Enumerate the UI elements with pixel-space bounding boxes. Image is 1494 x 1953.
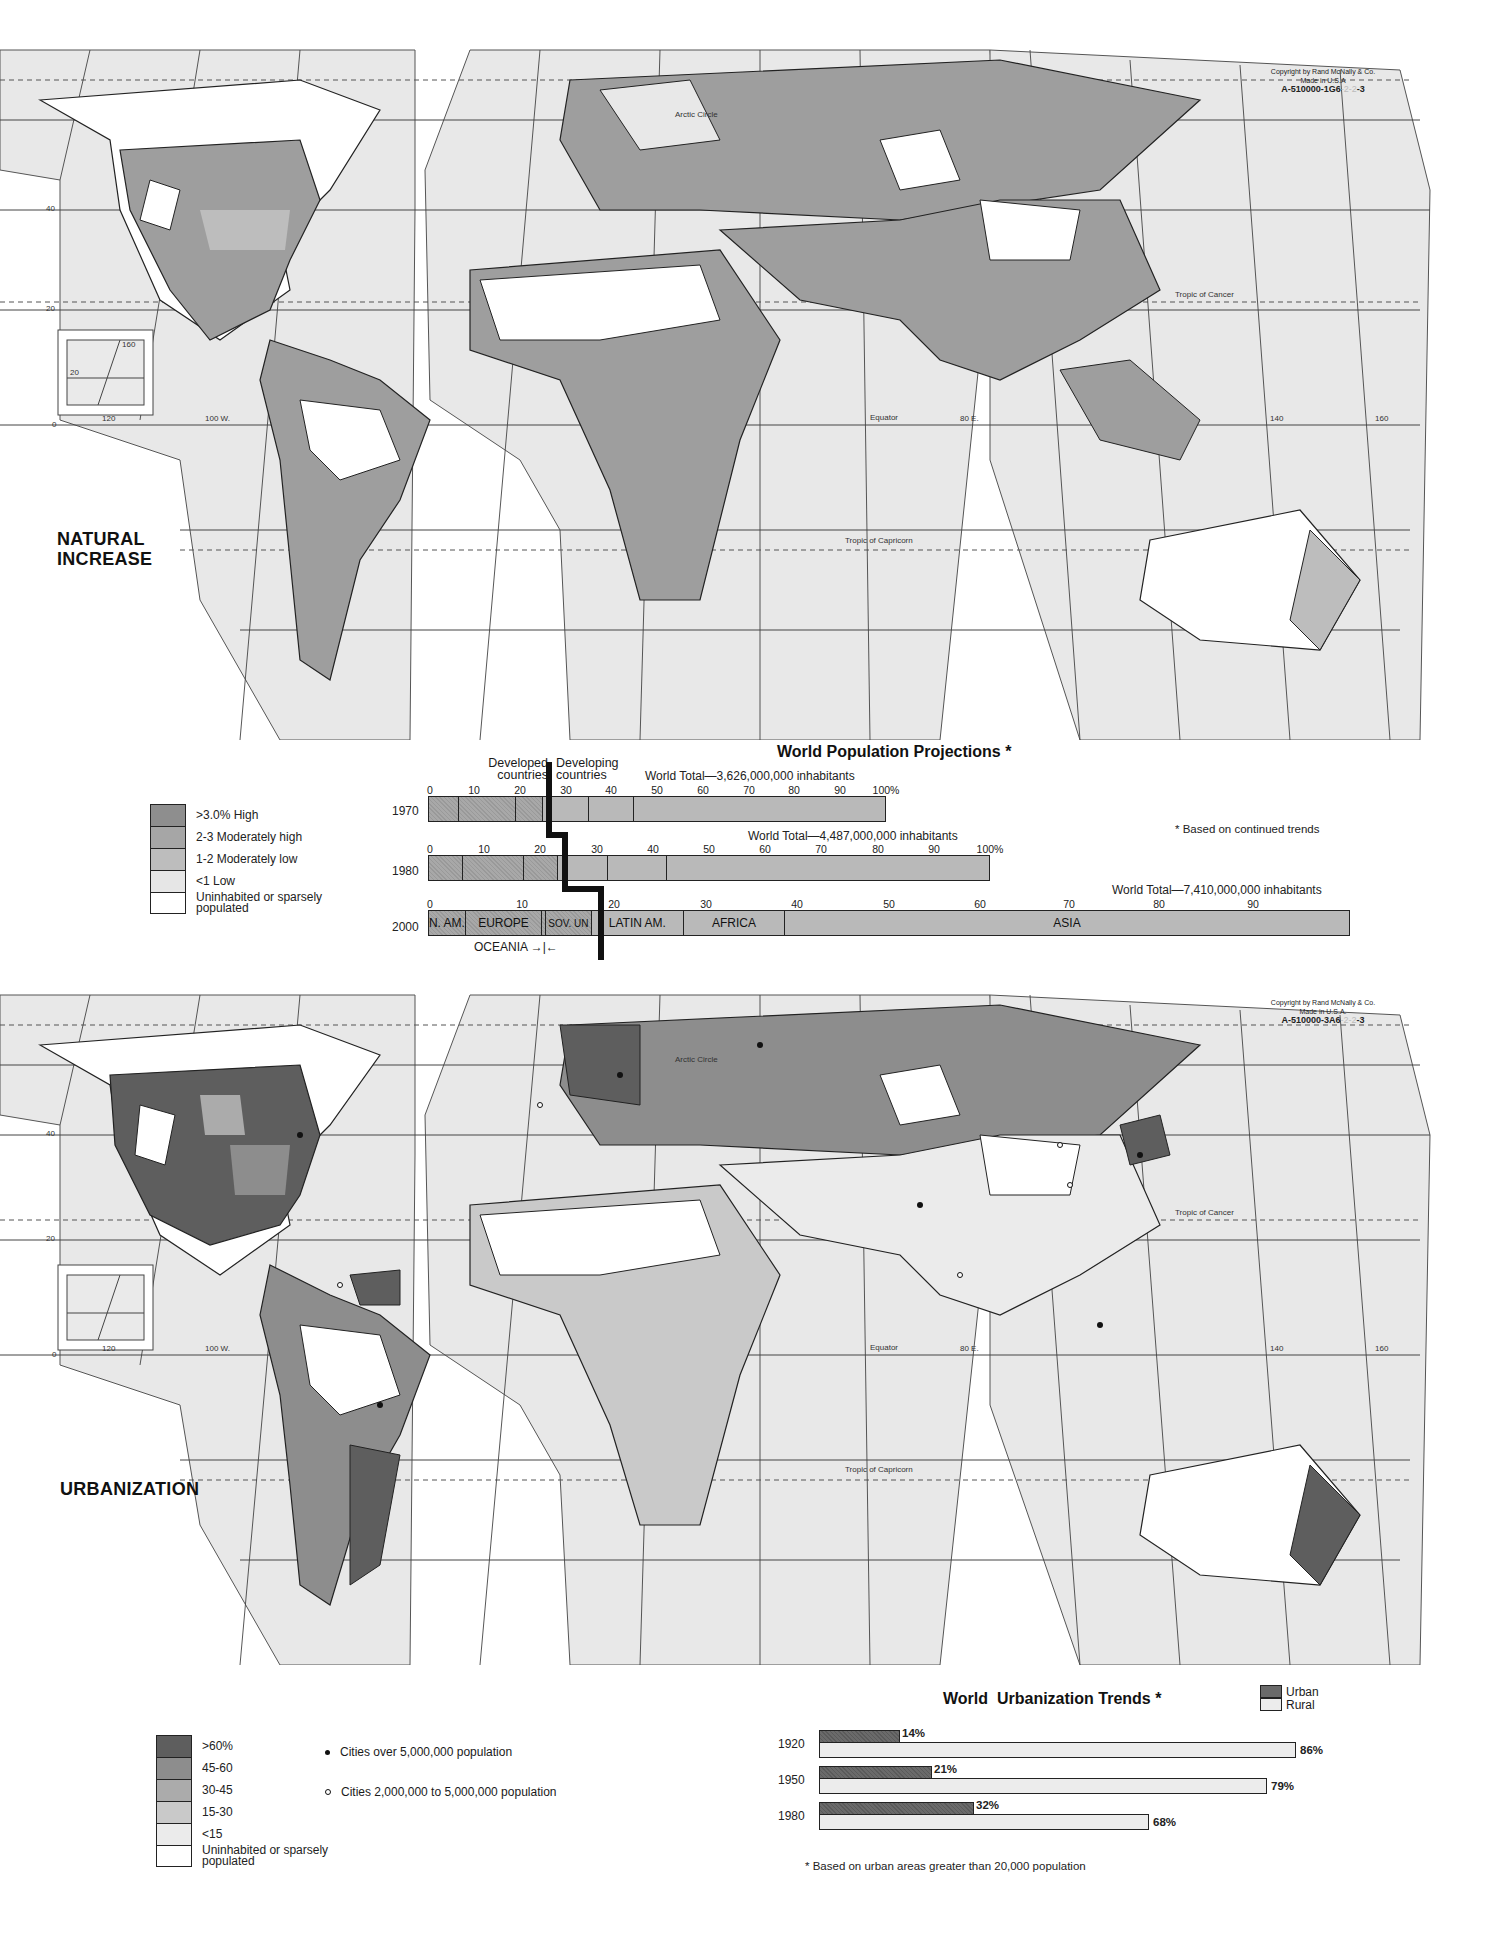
equator-label: Equator xyxy=(870,413,898,422)
developing-label: Developing countries xyxy=(556,757,636,781)
lat-0-label: 0 xyxy=(52,420,56,429)
population-projections-title: World Population Projections * xyxy=(777,743,1011,761)
lon-120-label: 120 xyxy=(102,414,115,423)
urbanization-footnote: * Based on urban areas greater than 20,0… xyxy=(805,1860,1086,1872)
lon-100w-label: 100 W. xyxy=(205,1344,230,1353)
urbanization-legend-key: Urban Rural xyxy=(1260,1685,1319,1711)
segment-sov-union: SOV. UN xyxy=(546,911,592,935)
rural-swatch xyxy=(1260,1698,1282,1711)
segment-sov-union xyxy=(524,856,558,880)
tropic-of-cancer-label: Tropic of Cancer xyxy=(1175,1208,1234,1217)
legend-swatch xyxy=(156,1801,192,1823)
lon-160-label: 160 xyxy=(1375,1344,1388,1353)
urban-swatch xyxy=(1260,1685,1282,1698)
developed-developing-divider xyxy=(546,762,552,832)
lon-160-label: 160 xyxy=(1375,414,1388,423)
segment-asia xyxy=(634,797,885,821)
segment-sov-union xyxy=(516,797,543,821)
legend-urban: Urban xyxy=(1260,1685,1319,1698)
lon-140-label: 140 xyxy=(1270,414,1283,423)
legend-item-uninhabited: Uninhabited or sparsely populated xyxy=(156,1845,332,1867)
segment-europe: EUROPE xyxy=(466,911,542,935)
lat-20-label: 20 xyxy=(46,304,55,313)
segment-n-america: N. AM. xyxy=(429,911,466,935)
tropic-of-cancer-label: Tropic of Cancer xyxy=(1175,290,1234,299)
urban-pct-1950: 21% xyxy=(934,1763,957,1775)
lat-40-label: 40 xyxy=(46,204,55,213)
segment-africa xyxy=(608,856,667,880)
legend-item-15-30: 15-30 xyxy=(156,1801,332,1823)
legend-item-under-15: <15 xyxy=(156,1823,332,1845)
arctic-circle-label: Arctic Circle xyxy=(675,1055,718,1064)
legend-item-moderately-low: 1-2 Moderately low xyxy=(150,848,326,870)
filled-dot-icon xyxy=(325,1750,330,1755)
legend-swatch xyxy=(156,1779,192,1801)
segment-europe xyxy=(463,856,525,880)
legend-swatch xyxy=(150,892,186,914)
legend-item-30-45: 30-45 xyxy=(156,1779,332,1801)
legend-swatch xyxy=(156,1845,192,1867)
legend-item-high: >3.0% High xyxy=(150,804,326,826)
legend-swatch xyxy=(150,804,186,826)
legend-item-45-60: 45-60 xyxy=(156,1757,332,1779)
developed-label: Developed countries xyxy=(468,757,548,781)
legend-rural: Rural xyxy=(1260,1698,1319,1711)
lat-20-label: 20 xyxy=(46,1234,55,1243)
segment-n-america xyxy=(429,856,463,880)
copyright-bottom: Copyright by Rand McNally & Co. Made in … xyxy=(1258,998,1388,1025)
projection-bar-1980 xyxy=(428,855,990,881)
natural-increase-title: NATURAL INCREASE xyxy=(57,529,152,569)
projection-bar-1970 xyxy=(428,796,886,822)
lat-0-label: 0 xyxy=(52,1350,56,1359)
legend-item-over-60: >60% xyxy=(156,1735,332,1757)
natural-increase-legend: >3.0% High 2-3 Moderately high 1-2 Moder… xyxy=(150,804,326,914)
inset-20-label: 20 xyxy=(70,368,79,377)
world-total-1980: World Total—4,487,000,000 inhabitants xyxy=(748,829,958,843)
year-1920: 1920 xyxy=(778,1737,805,1751)
legend-swatch xyxy=(150,826,186,848)
urbanization-map: Arctic Circle Tropic of Cancer Equator T… xyxy=(0,985,1440,1665)
legend-swatch xyxy=(150,870,186,892)
lon-120-label: 120 xyxy=(102,1344,115,1353)
inset-160-label: 160 xyxy=(122,340,135,349)
lat-40-label: 40 xyxy=(46,1129,55,1138)
legend-swatch xyxy=(150,848,186,870)
year-1970: 1970 xyxy=(392,804,419,818)
year-2000: 2000 xyxy=(392,920,419,934)
oceania-label: OCEANIA →|← xyxy=(474,940,558,954)
equator-label: Equator xyxy=(870,1343,898,1352)
tropic-of-capricorn-label: Tropic of Capricorn xyxy=(845,1465,913,1474)
lon-100w-label: 100 W. xyxy=(205,414,230,423)
year-1950: 1950 xyxy=(778,1773,805,1787)
rural-pct-1920: 86% xyxy=(1300,1744,1323,1756)
urban-pct-1980: 32% xyxy=(976,1799,999,1811)
lon-80e-label: 80 E. xyxy=(960,1344,979,1353)
lon-140-label: 140 xyxy=(1270,1344,1283,1353)
segment-n-america xyxy=(429,797,459,821)
rural-bar-1950 xyxy=(819,1778,1267,1794)
segment-asia xyxy=(667,856,989,880)
natural-increase-map: Arctic Circle Tropic of Cancer Equator T… xyxy=(0,40,1440,740)
legend-item-low: <1 Low xyxy=(150,870,326,892)
year-1980: 1980 xyxy=(392,864,419,878)
world-total-2000: World Total—7,410,000,000 inhabitants xyxy=(1112,883,1322,897)
lon-80e-label: 80 E. xyxy=(960,414,979,423)
year-1980-urban: 1980 xyxy=(778,1809,805,1823)
legend-item-moderately-high: 2-3 Moderately high xyxy=(150,826,326,848)
developed-developing-divider xyxy=(562,832,568,890)
rural-bar-1920 xyxy=(819,1742,1296,1758)
copyright-top: Copyright by Rand McNally & Co. Made in … xyxy=(1258,67,1388,94)
world-total-1970: World Total—3,626,000,000 inhabitants xyxy=(645,769,855,783)
rural-pct-1980: 68% xyxy=(1153,1816,1176,1828)
urban-pct-1920: 14% xyxy=(902,1727,925,1739)
legend-swatch xyxy=(156,1757,192,1779)
urbanization-title: URBANIZATION xyxy=(60,1479,199,1499)
segment-africa xyxy=(589,797,635,821)
segment-latin-america: LATIN AM. xyxy=(592,911,684,935)
developed-developing-divider xyxy=(598,886,604,960)
legend-cities-large: Cities over 5,000,000 population xyxy=(325,1745,512,1759)
hollow-dot-icon xyxy=(325,1789,331,1795)
legend-cities-medium: Cities 2,000,000 to 5,000,000 population xyxy=(325,1785,557,1799)
projection-bar-2000: N. AM. EUROPE SOV. UN LATIN AM. AFRICA A… xyxy=(428,910,1350,936)
rural-bar-1980 xyxy=(819,1814,1149,1830)
